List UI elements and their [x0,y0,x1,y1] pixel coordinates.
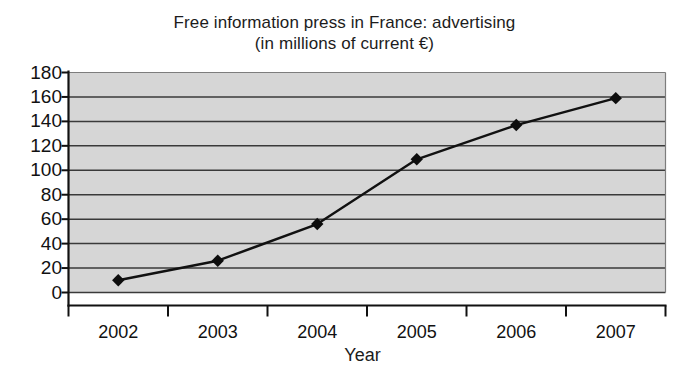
x-tick-label: 2007 [571,323,661,341]
x-tick-label: 2004 [272,323,362,341]
x-tick-label: 2002 [73,323,163,341]
x-tick-label: 2003 [173,323,263,341]
x-axis-title-text: Year [344,345,380,366]
x-axis-tick-labels: 200220032004200520062007 [0,0,689,376]
chart-figure: Free information press in France: advert… [0,0,689,376]
x-axis-title: Year [0,345,689,366]
x-tick-label: 2006 [471,323,561,341]
x-tick-label: 2005 [372,323,462,341]
